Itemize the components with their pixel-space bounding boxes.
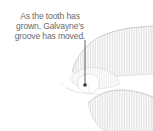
caption-text: As the tooth has grown, Galvayne's groov… [8, 11, 92, 42]
caption-line-3: groove has moved. [8, 31, 92, 41]
leader-dot-icon [83, 83, 87, 87]
caption-line-2: grown, Galvayne's [8, 21, 92, 31]
caption-line-1: As the tooth has [8, 11, 92, 21]
illustration-figure: As the tooth has grown, Galvayne's groov… [0, 0, 153, 131]
